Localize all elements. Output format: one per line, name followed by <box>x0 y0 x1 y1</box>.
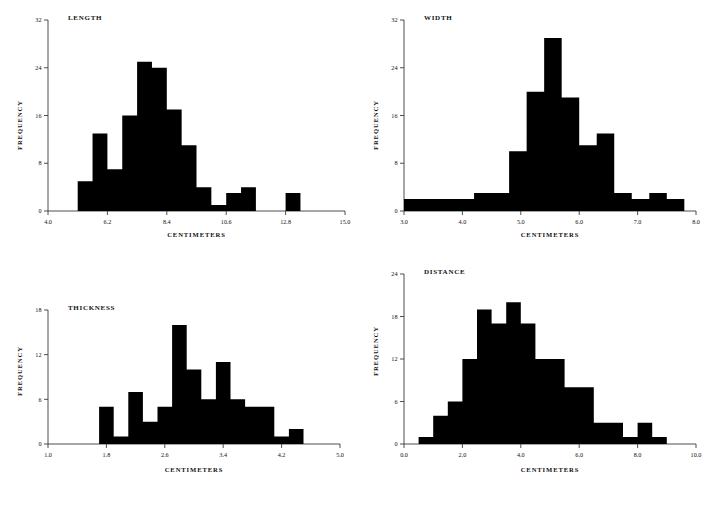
x-tick-label-thickness-4: 4.2 <box>278 451 286 458</box>
chart-title-distance: DISTANCE <box>424 268 465 276</box>
x-tick-label-width-4: 7.0 <box>634 218 642 225</box>
y-tick-label-thickness-0: 0 <box>38 440 41 447</box>
x-tick-label-distance-3: 6.0 <box>575 451 583 458</box>
y-tick-label-distance-0: 0 <box>394 440 397 447</box>
x-tick-label-width-0: 3.0 <box>400 218 408 225</box>
panel-distance: 061218240.02.04.06.08.010.0 DISTANCE CEN… <box>356 254 711 507</box>
y-tick-label-distance-3: 18 <box>391 313 397 320</box>
x-axis-label-thickness: CENTIMETERS <box>48 466 340 473</box>
y-tick-label-thickness-1: 6 <box>38 396 41 403</box>
chart-canvas-width: 081624323.04.05.06.07.08.0 <box>356 0 711 253</box>
x-tick-label-length-0: 4.0 <box>44 218 52 225</box>
histogram-bars-thickness <box>99 325 303 444</box>
y-tick-label-length-0: 0 <box>38 207 41 214</box>
chart-title-thickness: THICKNESS <box>68 304 115 312</box>
histogram-bars-length <box>78 62 316 211</box>
y-axis-label-distance: FREQUENCY <box>372 326 379 376</box>
y-tick-label-length-2: 16 <box>35 112 41 119</box>
y-tick-label-thickness-2: 12 <box>35 351 41 358</box>
histogram-bars-distance <box>419 302 667 444</box>
y-tick-label-width-4: 32 <box>391 16 397 23</box>
panel-thickness: 0612181.01.82.63.44.25.0 THICKNESS CENTI… <box>0 254 355 507</box>
y-tick-label-length-3: 24 <box>35 64 41 71</box>
plot-stage-thickness: 0612181.01.82.63.44.25.0 THICKNESS CENTI… <box>0 254 355 507</box>
y-tick-label-distance-1: 6 <box>394 398 397 405</box>
x-axis-label-length: CENTIMETERS <box>48 231 345 238</box>
x-tick-label-width-3: 6.0 <box>575 218 583 225</box>
plot-stage-distance: 061218240.02.04.06.08.010.0 DISTANCE CEN… <box>356 254 711 507</box>
plot-stage-length: 081624324.06.28.410.612.815.0 LENGTH CEN… <box>0 0 355 253</box>
x-tick-label-width-2: 5.0 <box>517 218 525 225</box>
y-tick-label-distance-2: 12 <box>391 355 397 362</box>
plot-stage-width: 081624323.04.05.06.07.08.0 WIDTH CENTIME… <box>356 0 711 253</box>
panel-width: 081624323.04.05.06.07.08.0 WIDTH CENTIME… <box>356 0 711 253</box>
x-tick-label-distance-2: 4.0 <box>517 451 525 458</box>
chart-canvas-length: 081624324.06.28.410.612.815.0 <box>0 0 355 253</box>
x-tick-label-thickness-5: 5.0 <box>336 451 344 458</box>
x-tick-label-length-2: 8.4 <box>163 218 171 225</box>
x-tick-label-distance-5: 10.0 <box>691 451 702 458</box>
y-tick-label-length-4: 32 <box>35 16 41 23</box>
x-axis-label-width: CENTIMETERS <box>404 231 696 238</box>
chart-title-width: WIDTH <box>424 14 452 22</box>
y-tick-label-width-0: 0 <box>394 207 397 214</box>
histogram-figure-grid: 081624324.06.28.410.612.815.0 LENGTH CEN… <box>0 0 711 507</box>
y-tick-label-width-1: 8 <box>394 159 397 166</box>
y-tick-label-thickness-3: 18 <box>35 306 41 313</box>
x-tick-label-length-4: 12.8 <box>280 218 291 225</box>
x-tick-label-thickness-3: 3.4 <box>219 451 227 458</box>
x-tick-label-width-1: 4.0 <box>459 218 467 225</box>
y-tick-label-length-1: 8 <box>38 159 41 166</box>
y-axis-label-width: FREQUENCY <box>372 100 379 150</box>
x-tick-label-thickness-2: 2.6 <box>161 451 169 458</box>
y-axis-label-thickness: FREQUENCY <box>16 346 23 396</box>
x-tick-label-distance-1: 2.0 <box>459 451 467 458</box>
chart-title-length: LENGTH <box>68 14 102 22</box>
panel-length: 081624324.06.28.410.612.815.0 LENGTH CEN… <box>0 0 355 253</box>
x-tick-label-length-1: 6.2 <box>104 218 112 225</box>
y-tick-label-distance-4: 24 <box>391 270 397 277</box>
x-tick-label-width-5: 8.0 <box>692 218 700 225</box>
x-tick-label-distance-4: 8.0 <box>634 451 642 458</box>
x-tick-label-thickness-1: 1.8 <box>103 451 111 458</box>
y-tick-label-width-3: 24 <box>391 64 397 71</box>
x-tick-label-thickness-0: 1.0 <box>44 451 52 458</box>
x-axis-label-distance: CENTIMETERS <box>404 466 696 473</box>
y-tick-label-width-2: 16 <box>391 112 397 119</box>
y-axis-label-length: FREQUENCY <box>16 100 23 150</box>
x-tick-label-length-3: 10.6 <box>221 218 232 225</box>
histogram-bars-width <box>404 38 684 211</box>
x-tick-label-distance-0: 0.0 <box>400 451 408 458</box>
x-tick-label-length-5: 15.0 <box>340 218 351 225</box>
